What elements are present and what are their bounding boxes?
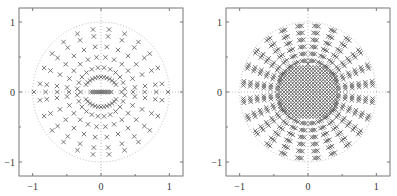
x-marker [335,47,339,51]
x-marker [140,72,144,76]
x-marker [92,34,96,38]
x-marker [126,54,130,58]
x-marker [334,65,338,69]
x-marker [253,51,257,55]
x-marker [160,98,164,102]
x-marker [82,132,86,136]
x-marker [112,122,116,126]
x-marker [113,109,117,113]
x-marker [156,66,160,70]
x-marker [61,140,65,144]
x-marker [94,125,98,129]
x-marker [277,115,281,119]
x-marker [148,51,152,55]
x-marker [118,75,122,79]
x-marker [78,62,82,66]
x-marker [65,85,69,89]
x-marker [280,127,284,131]
x-marker [77,80,81,84]
x-marker [108,112,112,116]
x-marker [327,58,331,62]
x-tick-label: 1 [167,181,172,192]
x-marker [143,90,147,94]
x-marker [122,32,126,36]
x-marker [337,112,341,116]
x-marker [112,57,116,61]
x-marker [116,48,120,52]
x-marker [105,135,109,139]
x-marker [64,117,68,121]
x-marker [86,57,90,61]
x-tick-label: 0 [306,181,311,192]
x-marker [94,55,98,59]
x-marker [66,134,70,138]
x-marker [45,82,49,86]
x-marker [103,55,107,59]
x-marker [272,119,276,123]
x-marker [272,138,276,142]
x-marker [353,124,357,128]
x-marker [48,68,52,72]
x-marker [67,103,71,107]
x-marker [269,64,273,68]
x-marker [160,82,164,86]
x-marker [58,107,62,111]
x-marker [277,55,281,59]
x-marker [80,105,84,109]
x-marker [153,82,157,86]
x-marker [72,126,76,130]
y-tick-label: −1 [211,157,222,168]
x-marker [126,111,130,115]
x-marker [120,118,124,122]
x-marker [132,45,136,49]
x-marker [136,140,140,144]
x-marker [84,97,88,101]
x-marker [275,68,279,72]
x-marker [149,111,153,115]
x-marker [122,148,126,152]
x-marker [108,67,112,71]
x-marker [256,132,260,136]
x-tick-label: 0 [99,181,104,192]
y-tick-label: 0 [217,87,222,98]
x-marker [264,60,268,64]
x-tick-label: −1 [27,181,38,192]
x-marker [80,75,84,79]
x-marker [107,27,111,31]
x-marker [347,141,351,145]
x-tick-label: −1 [234,181,245,192]
x-marker [331,52,335,56]
x-marker [134,62,138,66]
x-marker [259,55,263,59]
x-marker [78,118,82,122]
x-marker [134,117,138,121]
x-marker [66,45,70,49]
x-marker [106,145,110,149]
x-marker [334,125,338,129]
x-marker [121,99,125,103]
x-marker [276,133,280,137]
x-marker [132,134,136,138]
x-marker [65,94,69,98]
x-marker [126,126,130,130]
x-marker [281,61,285,65]
x-marker [55,124,59,128]
x-marker [273,49,277,53]
left-scatter-panel: −101−101 [4,8,183,192]
x-marker [142,56,146,60]
x-marker [345,56,349,60]
x-marker [266,123,270,127]
x-marker [285,122,289,126]
x-marker [342,116,346,120]
x-marker [156,114,160,118]
x-marker [77,99,81,103]
x-marker [96,114,100,118]
y-tick-label: −1 [4,157,15,168]
x-marker [110,78,114,82]
x-marker [67,76,71,80]
x-marker [110,101,114,105]
x-marker [55,96,59,100]
x-marker [61,40,65,44]
right-scatter-panel: −101−101 [211,8,390,192]
x-marker [268,144,272,148]
